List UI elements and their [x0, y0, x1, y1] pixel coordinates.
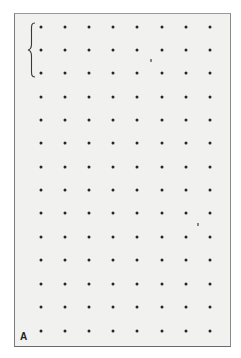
grid-dot: [64, 283, 67, 286]
grid-dot: [112, 306, 115, 309]
grid-dot: [112, 212, 115, 215]
grid-dot: [209, 283, 212, 286]
grid-dot: [209, 212, 212, 215]
grid-dot: [88, 119, 91, 122]
grid-dot: [112, 259, 115, 262]
grid-dot: [185, 330, 188, 333]
grid-dot: [88, 49, 91, 52]
grid-dot: [40, 212, 43, 215]
grid-dot: [185, 72, 188, 75]
grid-dot: [185, 166, 188, 169]
grid-dot: [88, 189, 91, 192]
grid-dot: [161, 259, 164, 262]
grid-dot: [209, 330, 212, 333]
grid-dot: [112, 72, 115, 75]
grid-dot: [40, 26, 43, 29]
grid-dot: [88, 26, 91, 29]
panel-label: A: [20, 331, 27, 343]
grid-dot: [88, 259, 91, 262]
grid-dot: [40, 142, 43, 145]
grid-dot: [64, 72, 67, 75]
grid-dot: [161, 142, 164, 145]
grid-dot: [112, 330, 115, 333]
grid-dot: [185, 189, 188, 192]
grid-dot: [88, 283, 91, 286]
grid-dot: [209, 236, 212, 239]
grid-dot: [88, 306, 91, 309]
grid-dot: [112, 142, 115, 145]
grid-dot: [209, 306, 212, 309]
grid-dot: [209, 119, 212, 122]
grid-dot: [185, 26, 188, 29]
grid-dot: [209, 96, 212, 99]
grid-dot: [136, 212, 139, 215]
grid-dot: [161, 166, 164, 169]
grid-dot: [161, 26, 164, 29]
grid-dot: [161, 283, 164, 286]
grid-dot: [136, 142, 139, 145]
grid-dot: [64, 119, 67, 122]
grid-dot: [88, 96, 91, 99]
grid-dot: [40, 166, 43, 169]
grid-dot: [209, 259, 212, 262]
curly-brace-icon: [27, 22, 37, 78]
grid-dot: [112, 119, 115, 122]
grid-dot: [64, 166, 67, 169]
grid-dot: [40, 259, 43, 262]
grid-dot: [112, 236, 115, 239]
grid-dot: [209, 166, 212, 169]
grid-dot: [161, 119, 164, 122]
grid-dot: [40, 72, 43, 75]
grid-dot: [40, 330, 43, 333]
grid-dot: [88, 212, 91, 215]
grid-dot: [185, 306, 188, 309]
grid-dot: [64, 306, 67, 309]
grid-dot: [161, 72, 164, 75]
grid-dot: [136, 330, 139, 333]
grid-dot: [209, 26, 212, 29]
grid-dot: [209, 189, 212, 192]
grid-dot: [161, 49, 164, 52]
grid-dot: [185, 212, 188, 215]
grid-dot: [40, 283, 43, 286]
grid-dot: [40, 49, 43, 52]
grid-dot: [64, 26, 67, 29]
grid-dot: [161, 306, 164, 309]
grid-dot: [40, 96, 43, 99]
grid-dot: [88, 72, 91, 75]
grid-dot: [64, 236, 67, 239]
grid-dot: [161, 96, 164, 99]
grid-dot: [112, 96, 115, 99]
grid-dot: [64, 49, 67, 52]
grid-dot: [136, 96, 139, 99]
grid-dot: [185, 236, 188, 239]
stray-mark: [150, 59, 152, 62]
grid-dot: [209, 142, 212, 145]
grid-dot: [136, 119, 139, 122]
stray-mark: [197, 223, 199, 226]
grid-dot: [40, 189, 43, 192]
grid-dot: [161, 189, 164, 192]
grid-dot: [112, 283, 115, 286]
dot-grid-sheet: [14, 13, 231, 347]
grid-dot: [209, 49, 212, 52]
grid-dot: [112, 26, 115, 29]
grid-dot: [161, 330, 164, 333]
grid-dot: [185, 119, 188, 122]
grid-dot: [185, 49, 188, 52]
grid-dot: [136, 306, 139, 309]
grid-dot: [136, 72, 139, 75]
grid-dot: [64, 189, 67, 192]
grid-dot: [161, 236, 164, 239]
grid-dot: [136, 259, 139, 262]
grid-dot: [136, 49, 139, 52]
grid-dot: [88, 142, 91, 145]
grid-dot: [88, 236, 91, 239]
grid-dot: [88, 330, 91, 333]
grid-dot: [136, 283, 139, 286]
grid-dot: [136, 26, 139, 29]
grid-dot: [112, 166, 115, 169]
grid-dot: [185, 283, 188, 286]
grid-dot: [136, 236, 139, 239]
grid-dot: [64, 142, 67, 145]
